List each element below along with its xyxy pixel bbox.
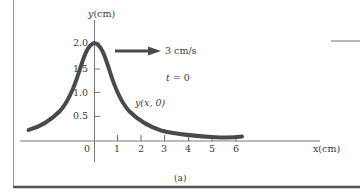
y-tick-label-1-5: 1.5 bbox=[73, 64, 88, 74]
y-ticks bbox=[95, 43, 101, 117]
y-tick-label-1-0: 1.0 bbox=[73, 88, 88, 98]
curve-label: y(x, 0) bbox=[135, 98, 165, 108]
x-tick-label-1: 1 bbox=[114, 144, 120, 154]
x-tick-label-3: 3 bbox=[161, 144, 167, 154]
x-tick-label-0: 0 bbox=[84, 144, 90, 154]
time-label-rest: = 0 bbox=[170, 72, 190, 83]
y-axis-label-unit: (cm) bbox=[93, 8, 115, 19]
pulse-curve bbox=[29, 43, 242, 138]
velocity-arrow-head bbox=[148, 47, 161, 56]
time-label: t = 0 bbox=[166, 73, 190, 83]
x-tick-label-2: 2 bbox=[138, 144, 144, 154]
figure-caption: (a) bbox=[174, 174, 186, 183]
y-tick-label-2-0: 2.0 bbox=[73, 38, 88, 48]
y-axis-label: y(cm) bbox=[88, 9, 115, 19]
x-tick-label-5: 5 bbox=[209, 144, 215, 154]
x-axis-label-unit: (cm) bbox=[318, 143, 340, 154]
x-tick-label-4: 4 bbox=[185, 144, 191, 154]
x-axis-label: x(cm) bbox=[313, 144, 340, 154]
wave-pulse-figure bbox=[0, 0, 360, 195]
velocity-label: 3 cm/s bbox=[165, 46, 196, 56]
y-tick-label-0-5: 0.5 bbox=[73, 111, 88, 121]
x-tick-label-6: 6 bbox=[233, 144, 239, 154]
